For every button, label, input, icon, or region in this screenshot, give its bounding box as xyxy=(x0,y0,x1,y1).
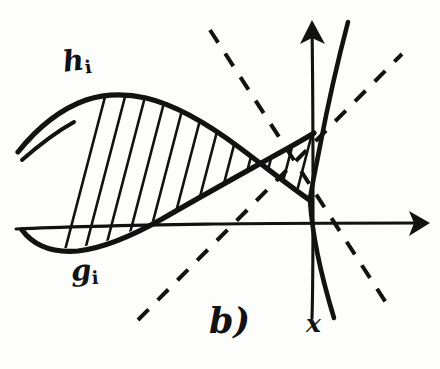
steep-curve xyxy=(310,22,348,318)
curve-label-g-base: g xyxy=(70,253,92,288)
horizontal-axis xyxy=(16,223,424,229)
curve-label-h: hi xyxy=(61,44,93,79)
dashed-lines-group xyxy=(138,30,402,320)
curve-lower-g xyxy=(22,133,314,251)
curve-label-g: gi xyxy=(70,255,99,288)
curve-label-h-base: h xyxy=(61,42,86,78)
figure-container: hi gi b) x xyxy=(0,0,440,369)
curve-label-g-subscript: i xyxy=(91,267,99,288)
dashed-ascending-line xyxy=(138,54,402,320)
x-axis-label: x xyxy=(306,311,321,336)
curve-upper-h xyxy=(18,95,311,201)
figure-part-label: b) xyxy=(209,303,250,338)
